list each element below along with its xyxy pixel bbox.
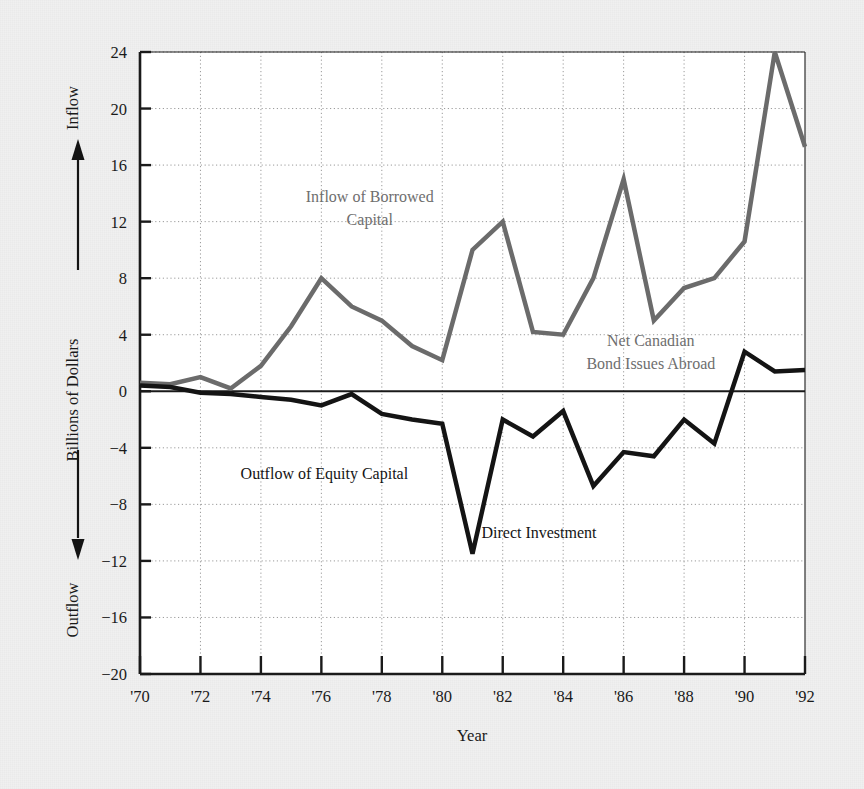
- y-tick-label: 20: [111, 100, 128, 119]
- line-chart-svg: 24201612840−4−8−12−16−20 '70'72'74'76'78…: [0, 0, 864, 789]
- page-background: 24201612840−4−8−12−16−20 '70'72'74'76'78…: [0, 0, 864, 789]
- y-tick-label: 8: [119, 269, 127, 288]
- x-tick-label: '72: [191, 687, 210, 706]
- y-tick-label: 4: [119, 326, 127, 345]
- y-tick-label: 12: [111, 213, 128, 232]
- series-annotation-label: Outflow of Equity Capital: [241, 465, 409, 483]
- y-axis-title-group: Inflow Billions of Dollars Outflow: [63, 86, 85, 638]
- y-axis-inflow-label: Inflow: [63, 86, 82, 130]
- x-axis-title: Year: [457, 726, 488, 745]
- series-annotation-label: Net Canadian: [607, 332, 695, 349]
- y-tick-label: −12: [101, 552, 127, 571]
- x-tick-label: '70: [130, 687, 149, 706]
- y-axis-title: Billions of Dollars: [63, 339, 82, 462]
- series-annotation-label: Capital: [347, 211, 394, 229]
- series-annotation-label: Inflow of Borrowed: [306, 188, 434, 205]
- outflow-arrow-head-icon: [72, 539, 85, 560]
- y-tick-label: −16: [101, 608, 127, 627]
- x-tick-label: '74: [251, 687, 270, 706]
- x-tick-label: '80: [433, 687, 452, 706]
- series-annotation-label: Bond Issues Abroad: [586, 355, 715, 372]
- x-tick-label: '82: [493, 687, 512, 706]
- x-tick-label: '88: [674, 687, 693, 706]
- y-tick-label: −20: [101, 665, 127, 684]
- inflow-arrow-head-icon: [72, 139, 85, 160]
- y-tick-label: 24: [111, 43, 128, 62]
- y-tick-label: 16: [111, 156, 128, 175]
- x-tick-label: '92: [795, 687, 814, 706]
- y-tick-label: −8: [109, 495, 127, 514]
- y-tick-label: −4: [109, 439, 127, 458]
- series-annotation-label: Direct Investment: [481, 524, 597, 541]
- x-tick-label: '76: [312, 687, 331, 706]
- y-tick-label: 0: [119, 382, 127, 401]
- x-tick-label: '86: [614, 687, 633, 706]
- x-tick-label: '90: [735, 687, 754, 706]
- y-axis-outflow-label: Outflow: [63, 582, 82, 637]
- x-tick-label: '84: [553, 687, 572, 706]
- y-axis-tick-labels: 24201612840−4−8−12−16−20: [101, 43, 127, 684]
- chart-figure: 24201612840−4−8−12−16−20 '70'72'74'76'78…: [0, 0, 864, 789]
- x-axis-tick-labels: '70'72'74'76'78'80'82'84'86'88'90'92: [130, 687, 814, 706]
- x-tick-label: '78: [372, 687, 391, 706]
